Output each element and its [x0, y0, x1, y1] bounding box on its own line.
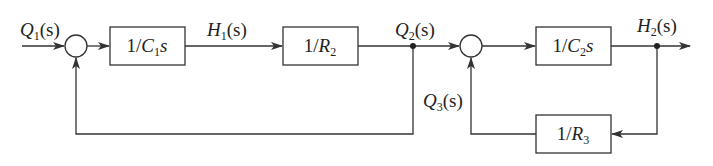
branch-node-1 — [410, 43, 416, 49]
feedback-q3 — [76, 46, 413, 134]
block-2-label: 1/R2 — [304, 35, 336, 59]
feedback-r3 — [471, 58, 536, 134]
label-q2: Q2(s) — [395, 19, 435, 43]
label-h1: H1(s) — [206, 19, 247, 43]
summing-junction-2 — [460, 35, 482, 57]
label-q1: Q1(s) — [20, 19, 60, 43]
summing-junction-1 — [65, 35, 87, 57]
block-3-label: 1/C2s — [553, 35, 594, 59]
block-1-label: 1/C1s — [127, 35, 168, 59]
branch-node-2 — [654, 43, 660, 49]
label-h2: H2(s) — [636, 15, 677, 39]
block-diagram: Q1(s) H1(s) Q2(s) Q3(s) H2(s) 1/C1s 1/R2… — [0, 0, 713, 166]
block-4-label: 1/R3 — [557, 123, 589, 147]
feedback-h2 — [612, 46, 657, 134]
label-q3: Q3(s) — [423, 90, 463, 114]
